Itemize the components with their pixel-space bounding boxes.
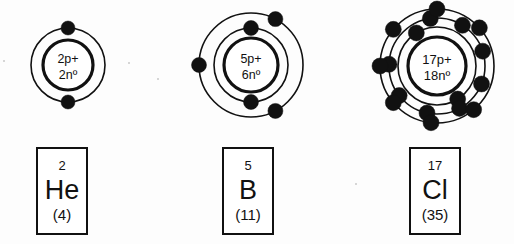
chlorine-atom-electron [475,43,491,59]
boron-atom-electron [192,58,207,73]
boron-atom-electron [268,103,283,118]
helium-atom: 2p+2nº [31,21,105,109]
chlorine-atom-electron [454,17,470,33]
helium-atom-electron [61,95,75,109]
scan-speck [355,183,357,185]
chlorine-atom-electron [452,100,468,116]
mass-number: (11) [235,206,261,224]
boron-atom-electron [244,95,259,110]
atomic-structure-diagram: 2p+2nº5p+6nº17p+18nº 2He(4)5B(11)17Cl(35… [0,0,514,244]
chlorine-atom-electron [385,95,401,111]
boron-atom: 5p+6nº [192,12,304,119]
atomic-number: 17 [428,158,442,174]
element-symbol: B [239,175,257,205]
bohr-models-layer: 2p+2nº5p+6nº17p+18nº [0,0,514,150]
boron-atom-proton-label: 5p+ [240,52,261,66]
chlorine-atom-electron [423,115,439,131]
mass-number: (4) [53,206,71,224]
atomic-number: 2 [58,158,65,174]
chlorine-atom-electron [466,102,482,118]
helium-atom-proton-label: 2p+ [57,52,78,66]
helium-atom-neutron-label: 2nº [59,68,78,82]
chlorine-atom-electron [474,76,490,92]
chlorine-atom: 17p+18nº [372,1,494,131]
element-box-he: 2He(4) [36,147,88,235]
atomic-number: 5 [244,158,251,174]
element-box-cl: 17Cl(35) [409,147,461,235]
boron-atom-electron [244,21,259,36]
chlorine-atom-electron [372,58,388,74]
chlorine-atom-neutron-label: 18nº [424,68,451,83]
scan-speck [128,62,130,64]
chlorine-atom-electron [471,20,487,36]
chlorine-atom-electron [408,25,424,41]
mass-number: (35) [422,206,449,224]
chlorine-atom-electron [385,21,401,37]
element-symbol: He [45,175,80,205]
chlorine-atom-electron [429,1,445,17]
scan-speck [3,60,5,62]
element-symbol: Cl [422,175,448,205]
scan-speck [157,78,159,80]
helium-atom-electron [61,21,75,35]
boron-atom-electron [268,12,283,27]
boron-atom-neutron-label: 6nº [242,68,261,82]
element-box-b: 5B(11) [222,147,274,235]
chlorine-atom-proton-label: 17p+ [422,52,451,67]
